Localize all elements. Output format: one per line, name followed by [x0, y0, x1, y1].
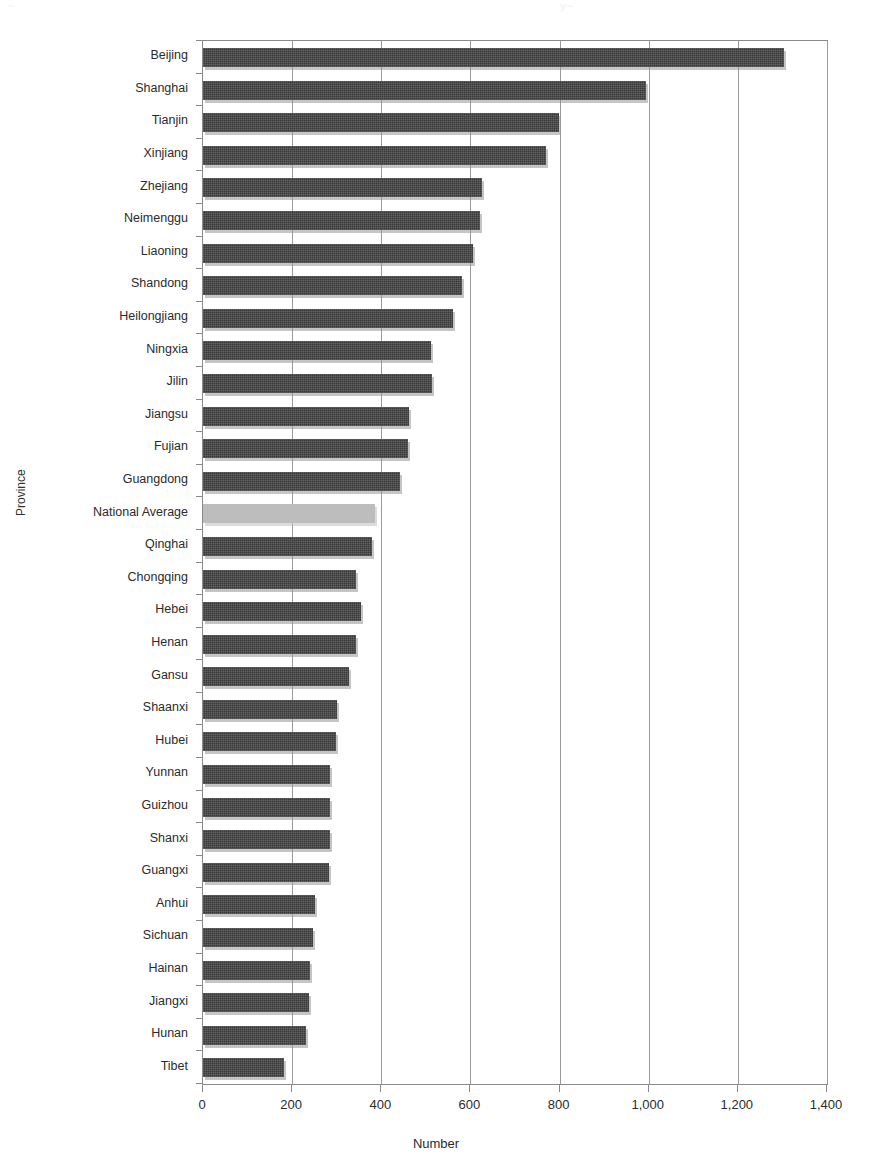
y-axis-tick-label: Jiangsu	[0, 407, 188, 421]
bar-row	[203, 758, 827, 791]
y-axis-tick-label: Liaoning	[0, 244, 188, 258]
bar[interactable]	[203, 830, 330, 849]
y-axis-tick-mark	[196, 887, 202, 888]
y-axis-tick-mark	[196, 529, 202, 530]
bar[interactable]	[203, 504, 375, 523]
bar[interactable]	[203, 570, 356, 589]
y-axis-tick-label: Shanxi	[0, 831, 188, 845]
bar-row	[203, 334, 827, 367]
bar-row	[203, 921, 827, 954]
y-axis-tick-mark	[196, 366, 202, 367]
bar[interactable]	[203, 928, 313, 947]
bar-row	[203, 465, 827, 498]
y-axis-tick-mark	[196, 1018, 202, 1019]
bar-row	[203, 204, 827, 237]
y-axis-tick-mark	[196, 953, 202, 954]
x-axis-title: Number	[0, 1136, 872, 1151]
bar-row	[203, 497, 827, 530]
y-axis-tick-label: Shandong	[0, 276, 188, 290]
bar-row	[203, 1019, 827, 1052]
x-axis-tick-mark	[826, 1084, 827, 1092]
bar[interactable]	[203, 211, 480, 230]
bar-row	[203, 888, 827, 921]
bar[interactable]	[203, 472, 400, 491]
x-axis-tick-mark	[559, 1084, 560, 1092]
gridline	[827, 41, 828, 1084]
bar[interactable]	[203, 667, 349, 686]
horizontal-bar-chart: ~ y~ Province BeijingShanghaiTianjinXinj…	[0, 0, 872, 1166]
y-axis-tick-label: Guangxi	[0, 863, 188, 877]
y-axis-tick-label: Tibet	[0, 1059, 188, 1073]
y-axis-tick-label: Guangdong	[0, 472, 188, 486]
y-axis-tick-label: Neimenggu	[0, 211, 188, 225]
bar-row	[203, 432, 827, 465]
y-axis-tick-mark	[196, 659, 202, 660]
bar[interactable]	[203, 81, 646, 100]
bar[interactable]	[203, 537, 372, 556]
bar[interactable]	[203, 146, 546, 165]
bar-row	[203, 269, 827, 302]
y-axis-tick-mark	[196, 301, 202, 302]
y-axis-tick-label: Qinghai	[0, 537, 188, 551]
bar[interactable]	[203, 276, 462, 295]
y-axis-tick-mark	[196, 333, 202, 334]
header-fragment-left: ~	[8, 0, 15, 12]
bar[interactable]	[203, 309, 453, 328]
x-axis-tick-label: 1,000	[613, 1097, 683, 1112]
y-axis-tick-label: Beijing	[0, 48, 188, 62]
bar[interactable]	[203, 439, 408, 458]
y-axis-tick-mark	[196, 431, 202, 432]
y-axis-tick-mark	[196, 920, 202, 921]
y-axis-tick-labels: BeijingShanghaiTianjinXinjiangZhejiangNe…	[0, 40, 196, 1083]
y-axis-tick-label: Sichuan	[0, 928, 188, 942]
bar[interactable]	[203, 407, 409, 426]
bar[interactable]	[203, 374, 432, 393]
bar[interactable]	[203, 1026, 306, 1045]
bar[interactable]	[203, 798, 330, 817]
y-axis-tick-mark	[196, 105, 202, 106]
bar[interactable]	[203, 765, 330, 784]
bar-row	[203, 171, 827, 204]
x-axis-tick-label: 1,400	[791, 1097, 861, 1112]
x-axis-tick-mark	[202, 1084, 203, 1092]
bar[interactable]	[203, 863, 329, 882]
x-axis-tick-mark	[380, 1084, 381, 1092]
y-axis-tick-label: National Average	[0, 505, 188, 519]
bar-row	[203, 237, 827, 270]
bar[interactable]	[203, 178, 482, 197]
y-axis-tick-mark	[196, 562, 202, 563]
y-axis-tick-label: Tianjin	[0, 113, 188, 127]
x-axis-tick-mark	[291, 1084, 292, 1092]
y-axis-tick-label: Hubei	[0, 733, 188, 747]
bar[interactable]	[203, 635, 356, 654]
bar-row	[203, 693, 827, 726]
bar[interactable]	[203, 113, 559, 132]
y-axis-tick-label: Hainan	[0, 961, 188, 975]
bar[interactable]	[203, 602, 361, 621]
bar-row	[203, 400, 827, 433]
bar[interactable]	[203, 732, 336, 751]
y-axis-tick-label: Fujian	[0, 439, 188, 453]
y-axis-tick-label: Gansu	[0, 668, 188, 682]
x-axis-tick-label: 400	[345, 1097, 415, 1112]
y-axis-tick-mark	[196, 822, 202, 823]
bar[interactable]	[203, 700, 337, 719]
bar-row	[203, 106, 827, 139]
y-axis-tick-label: Chongqing	[0, 570, 188, 584]
y-axis-tick-label: Guizhou	[0, 798, 188, 812]
bar[interactable]	[203, 341, 431, 360]
bar[interactable]	[203, 1058, 284, 1077]
bar[interactable]	[203, 993, 309, 1012]
bar[interactable]	[203, 961, 310, 980]
bar[interactable]	[203, 244, 473, 263]
y-axis-tick-mark	[196, 203, 202, 204]
bar-row	[203, 791, 827, 824]
y-axis-tick-mark	[196, 1050, 202, 1051]
y-axis-tick-mark	[196, 138, 202, 139]
y-axis-tick-mark	[196, 73, 202, 74]
y-axis-tick-mark	[196, 724, 202, 725]
bar[interactable]	[203, 895, 315, 914]
bar-row	[203, 628, 827, 661]
bar[interactable]	[203, 48, 784, 67]
y-axis-tick-mark	[196, 399, 202, 400]
